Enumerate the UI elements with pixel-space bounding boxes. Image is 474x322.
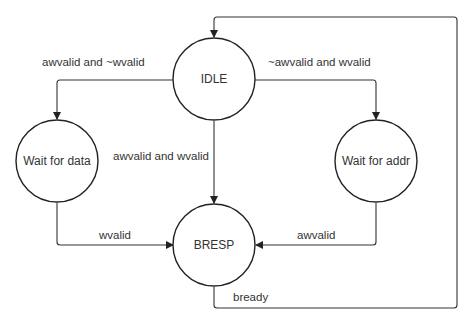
state-diagram: awvalid and ~wvalid ~awvalid and wvalid …	[0, 0, 474, 322]
state-bresp: BRESP	[173, 204, 255, 286]
edge-idle-to-wait-addr	[255, 80, 376, 119]
edge-idle-to-wait-data	[57, 80, 173, 119]
state-wait-addr-label: Wait for addr	[342, 154, 410, 168]
label-idle-to-wait-data: awvalid and ~wvalid	[42, 56, 145, 68]
label-wait-data-to-bresp: wvalid	[98, 229, 131, 241]
label-idle-to-wait-addr: ~awvalid and wvalid	[268, 56, 371, 68]
state-wait-for-addr: Wait for addr	[335, 120, 417, 202]
state-bresp-label: BRESP	[194, 238, 235, 252]
label-idle-to-bresp: awvalid and wvalid	[113, 150, 209, 162]
state-idle: IDLE	[173, 38, 255, 120]
state-wait-data-label: Wait for data	[23, 154, 91, 168]
label-bresp-to-idle: bready	[233, 291, 268, 303]
label-wait-addr-to-bresp: awvalid	[297, 229, 335, 241]
state-idle-label: IDLE	[201, 72, 228, 86]
state-wait-for-data: Wait for data	[16, 120, 98, 202]
